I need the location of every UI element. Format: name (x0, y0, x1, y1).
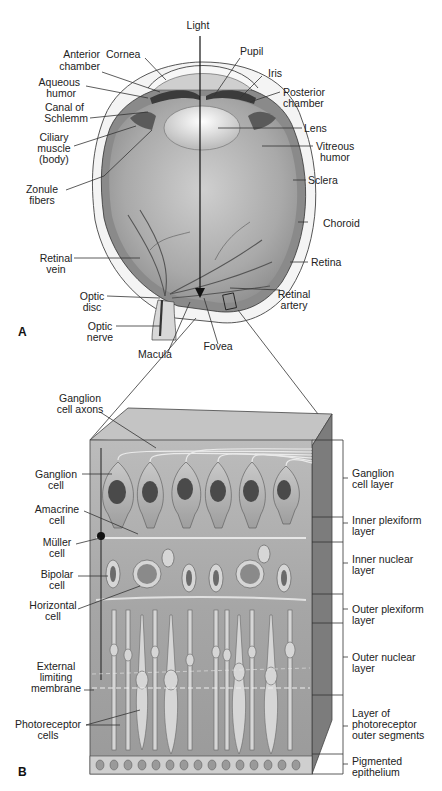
label-pupil: Pupil (240, 45, 263, 57)
label-zonule-fibers-2: fibers (29, 194, 55, 206)
label-muller-cell-2: cell (49, 547, 65, 559)
label-horizontal-cell-2: cell (45, 610, 61, 622)
label-bipolar-cell-2: cell (49, 579, 65, 591)
label-aqueous-humor-2: humor (46, 87, 76, 99)
label-light: Light (187, 19, 210, 31)
layer-outer-plexiform-2: layer (352, 614, 375, 626)
label-retinal-artery-2: artery (281, 299, 309, 311)
layer-outer-nuclear-2: layer (352, 662, 375, 674)
pigmented-epithelium (90, 756, 312, 774)
label-sclera: Sclera (308, 174, 338, 186)
label-iris: Iris (268, 67, 282, 79)
eye-retina-diagram: Light Cornea Anterior chamber Pupil Iris… (0, 0, 442, 791)
label-external-limiting-3: membrane (31, 682, 81, 694)
label-choroid: Choroid (323, 217, 360, 229)
label-ciliary-muscle-3: (body) (39, 153, 69, 165)
layer-ganglion-2: cell layer (352, 478, 394, 490)
label-canal-of-schlemm-2: Schlemm (44, 112, 88, 124)
label-fovea: Fovea (203, 340, 232, 352)
layer-pigmented-epithelium-2: epithelium (352, 766, 400, 778)
label-retina: Retina (311, 256, 342, 268)
label-anterior-chamber-2: chamber (59, 60, 100, 72)
panel-letter-b: B (18, 765, 27, 779)
label-anterior-chamber-1: Anterior (63, 48, 100, 60)
layer-outer-segments-3: outer segments (352, 729, 424, 741)
panel-b-layer-labels: Ganglion cell layer Inner plexiform laye… (352, 467, 424, 778)
panel-letter-a: A (18, 325, 27, 339)
layer-inner-plexiform-2: layer (352, 525, 375, 537)
label-optic-nerve-2: nerve (87, 331, 113, 343)
label-cornea: Cornea (106, 48, 141, 60)
label-optic-disc-2: disc (83, 301, 102, 313)
label-lens: Lens (304, 122, 327, 134)
label-vitreous-humor-2: humor (320, 151, 350, 163)
label-retinal-vein-2: vein (46, 263, 65, 275)
label-ganglion-cell-2: cell (48, 479, 64, 491)
layer-inner-nuclear-2: layer (352, 564, 375, 576)
label-posterior-chamber-2: chamber (283, 97, 324, 109)
label-amacrine-cell-2: cell (49, 514, 65, 526)
label-photoreceptor-cells-2: cells (37, 729, 58, 741)
label-ganglion-axons-2: cell axons (57, 403, 104, 415)
label-macula: Macula (138, 348, 172, 360)
